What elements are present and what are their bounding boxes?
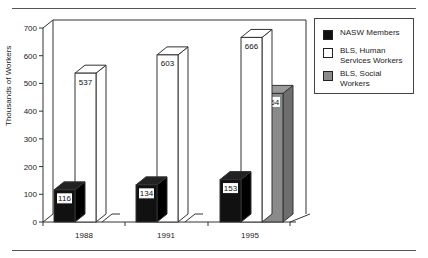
- y-tick-label: 500: [24, 79, 38, 88]
- data-label: 666: [245, 42, 259, 51]
- legend-label-bls-social-workers: BLS, Social Workers: [340, 69, 410, 89]
- legend-swatch-bls-human-services: [323, 48, 333, 58]
- x-category-label: 1995: [241, 231, 259, 240]
- legend-item-bls-human-services: BLS, Human Services Workers: [323, 46, 410, 66]
- legend-label-nasw: NASW Members: [340, 28, 410, 38]
- y-tick-label: 400: [24, 107, 38, 116]
- floor-right-edge: [290, 214, 310, 222]
- bar-side-face: [96, 65, 106, 222]
- data-label: 134: [140, 189, 154, 198]
- y-axis-label: Thousands of Workers: [4, 46, 13, 126]
- legend-label-bls-human-services: BLS, Human Services Workers: [340, 46, 410, 66]
- data-label: 153: [224, 184, 238, 193]
- legend-swatch-bls-social-workers: [323, 71, 333, 81]
- x-category-label: 1988: [75, 231, 93, 240]
- x-category-label: 1991: [157, 231, 175, 240]
- y-tick-label: 0: [33, 218, 38, 227]
- bar-side-face: [241, 172, 251, 222]
- bar-side-face: [178, 47, 188, 222]
- y-tick-label: 200: [24, 163, 38, 172]
- floor-left-edge: [43, 214, 53, 222]
- legend-item-bls-social-workers: BLS, Social Workers: [323, 69, 410, 89]
- legend: NASW Members BLS, Human Services Workers…: [314, 18, 414, 94]
- y-tick-label: 700: [24, 24, 38, 33]
- y-tick-label: 300: [24, 135, 38, 144]
- floor-gap-edge: [185, 214, 203, 222]
- legend-item-nasw: NASW Members: [323, 28, 410, 40]
- plot-left-wall: [43, 20, 53, 222]
- legend-swatch-nasw: [323, 30, 333, 40]
- data-label: 537: [79, 78, 93, 87]
- y-tick-label: 600: [24, 52, 38, 61]
- data-label: 116: [58, 194, 71, 203]
- data-label: 603: [161, 59, 175, 68]
- bar-side-face: [262, 29, 272, 222]
- bar-side-face: [283, 85, 293, 222]
- y-tick-label: 100: [24, 190, 38, 199]
